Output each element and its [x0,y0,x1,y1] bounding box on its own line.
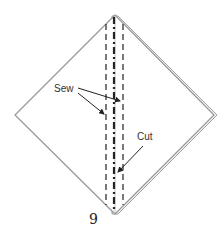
step-number: 9 [89,212,98,226]
sew-label: Sew [54,84,73,94]
cut-label: Cut [137,132,153,142]
diagram-canvas [0,0,223,233]
